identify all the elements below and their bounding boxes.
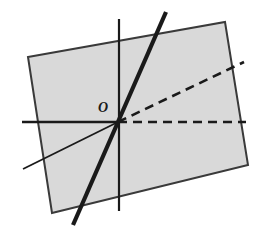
shaded-rectangle	[28, 22, 248, 213]
figure-container: O	[0, 0, 275, 226]
origin-label: O	[98, 101, 108, 115]
geometry-diagram	[0, 0, 275, 226]
